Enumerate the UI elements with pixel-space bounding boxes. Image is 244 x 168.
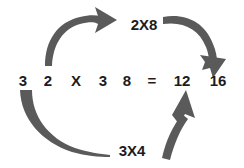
equation-term: = — [144, 70, 160, 92]
arrow-outer-three-to-three-times-four — [20, 90, 110, 157]
equation-term: X — [68, 70, 84, 92]
equation-term: 2 — [40, 70, 56, 92]
equation-term: 12 — [172, 70, 192, 92]
equation-term: 3 — [95, 70, 111, 92]
equation-term: 8 — [119, 70, 135, 92]
equation-term: 16 — [208, 70, 228, 92]
arrow-inner-two-to-eight — [45, 7, 117, 66]
arrow-outer-eight-to-sixteen — [163, 16, 226, 78]
equation-row: 3 2 X 3 8 = 12 16 — [0, 70, 244, 92]
multiplication-trick-diagram: 3 2 X 3 8 = 12 16 2X8 3X4 — [0, 0, 244, 168]
arrow-inner-three-times-four-to-twelve — [162, 90, 195, 160]
equation-term: 3 — [15, 70, 31, 92]
label-bottom-product: 3X4 — [110, 142, 154, 160]
label-top-product: 2X8 — [122, 16, 166, 34]
